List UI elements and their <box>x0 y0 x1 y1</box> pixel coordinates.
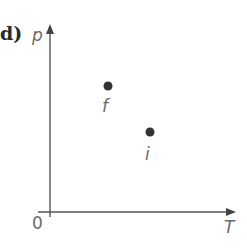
y-axis-label: p <box>32 27 43 44</box>
origin-label: 0 <box>32 215 43 232</box>
y-axis-arrow-icon <box>46 24 54 34</box>
x-axis-arrow-icon <box>226 208 236 216</box>
point-f <box>104 82 113 91</box>
p-T-diagram: d) p T 0 f i <box>0 0 247 249</box>
point-f-label: f <box>102 98 108 115</box>
point-i-label: i <box>145 146 150 163</box>
x-axis-label: T <box>224 219 234 236</box>
point-i <box>146 128 155 137</box>
